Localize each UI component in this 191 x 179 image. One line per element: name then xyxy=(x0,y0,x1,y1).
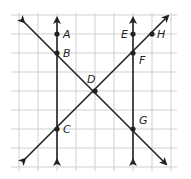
point-g xyxy=(130,126,135,131)
point-label-a: A xyxy=(62,28,71,41)
point-e xyxy=(130,31,135,36)
point-b xyxy=(54,50,59,55)
point-label-b: B xyxy=(63,47,71,60)
point-label-f: F xyxy=(139,54,146,67)
point-a xyxy=(54,31,59,36)
point-h xyxy=(149,31,154,36)
point-c xyxy=(54,126,59,131)
points: ABCDEFGH xyxy=(54,28,165,136)
geometry-diagram: ABCDEFGH xyxy=(0,0,191,179)
point-label-h: H xyxy=(157,28,165,41)
point-label-c: C xyxy=(63,123,71,136)
line-CDFH xyxy=(25,16,168,159)
point-f xyxy=(130,50,135,55)
point-label-d: D xyxy=(87,73,95,86)
point-label-g: G xyxy=(139,114,148,127)
point-label-e: E xyxy=(121,28,128,41)
point-d xyxy=(92,88,97,93)
